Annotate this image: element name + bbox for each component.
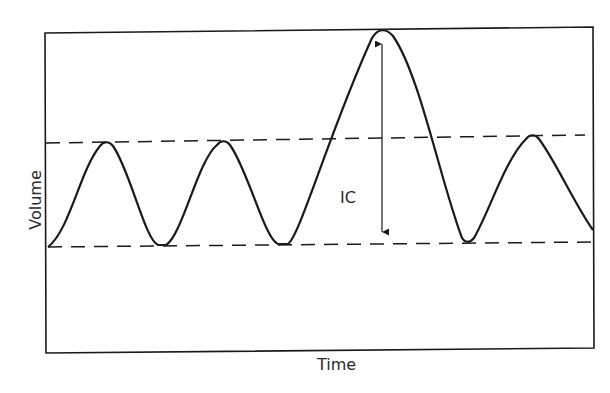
ic-diagram: IC Time Volume: [0, 0, 610, 393]
x-axis-label: Time: [316, 355, 356, 374]
end-inspiratory-dashed-line: [46, 135, 585, 143]
ic-label: IC: [340, 188, 356, 207]
y-axis-label: Volume: [26, 170, 45, 230]
plot-frame: [45, 27, 594, 353]
volume-trace: [48, 30, 593, 247]
end-expiratory-dashed-line: [48, 242, 593, 247]
